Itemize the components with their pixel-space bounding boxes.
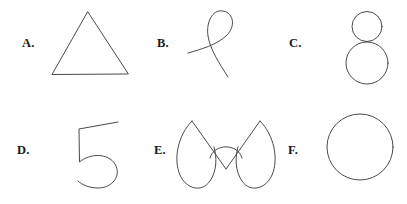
panel-c: C. [271,0,406,102]
triangle-shape [46,6,134,80]
panel-b: B. [136,0,271,102]
panel-label-a: A. [22,37,35,50]
panel-e: E. [136,102,271,204]
panel-label-e: E. [154,144,166,157]
digit-five-shape [70,120,128,192]
panel-label-b: B. [157,37,169,50]
panel-label-c: C. [289,37,302,50]
butterfly-shape [172,117,280,195]
panel-a: A. [0,0,135,102]
circle-shape [325,114,397,182]
panel-label-f: F. [288,144,298,157]
panel-d: D. [0,102,135,204]
shape-figure: A. B. C. D. E. [0,0,407,204]
double-circle-shape [339,10,395,86]
panel-label-d: D. [17,144,30,157]
panel-f: F. [271,102,406,204]
loop-curve-shape [186,5,256,85]
